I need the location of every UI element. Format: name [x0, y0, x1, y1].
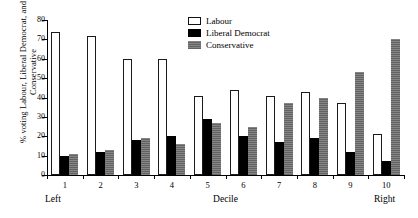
bar-group — [158, 20, 185, 175]
bar-liberaldemocrat-decile-10 — [382, 161, 391, 175]
x-tick-label-decile-6: 6 — [228, 180, 258, 191]
bar-conservative-decile-3 — [141, 138, 150, 175]
x-tick-label-decile-4: 4 — [157, 180, 187, 191]
bar-group — [51, 20, 78, 175]
bar-conservative-decile-8 — [319, 98, 328, 176]
x-tick-label-decile-8: 8 — [300, 180, 330, 191]
x-tick-mark — [333, 175, 334, 179]
bar-conservative-decile-7 — [284, 103, 293, 175]
y-tick-label: 30 — [37, 111, 45, 122]
bar-liberaldemocrat-decile-2 — [96, 152, 105, 175]
y-tick-label: 80 — [37, 14, 45, 25]
y-tick-label: 70 — [37, 33, 45, 44]
bar-group — [123, 20, 150, 175]
bar-liberaldemocrat-decile-3 — [132, 140, 141, 175]
bar-labour-decile-1 — [51, 32, 60, 175]
x-tick-mark — [83, 175, 84, 179]
bar-conservative-decile-10 — [391, 39, 400, 175]
bar-labour-decile-8 — [301, 92, 310, 175]
bar-conservative-decile-9 — [355, 72, 364, 175]
x-tick-mark — [226, 175, 227, 179]
x-tick-mark — [261, 175, 262, 179]
bar-group — [337, 20, 364, 175]
legend-item: Conservative — [188, 39, 270, 51]
bar-liberaldemocrat-decile-4 — [167, 136, 176, 175]
bar-labour-decile-7 — [266, 96, 275, 175]
x-tick-mark — [368, 175, 369, 179]
x-tick-label-decile-1: 1 — [50, 180, 80, 191]
bar-labour-decile-4 — [158, 59, 167, 175]
bar-liberaldemocrat-decile-7 — [275, 142, 284, 175]
bar-conservative-decile-4 — [176, 144, 185, 175]
y-axis-title: % voting Labour, Liberal Democrat, and C… — [18, 0, 38, 156]
bar-labour-decile-3 — [123, 59, 132, 175]
x-tick-mark — [118, 175, 119, 179]
y-tick-label: 20 — [37, 130, 45, 141]
bar-labour-decile-5 — [194, 96, 203, 175]
bar-labour-decile-2 — [87, 36, 96, 176]
x-tick-mark — [190, 175, 191, 179]
x-tick-label-decile-10: 10 — [371, 180, 401, 191]
y-tick-label: 0 — [41, 169, 45, 180]
legend-item: Labour — [188, 15, 270, 27]
bar-conservative-decile-5 — [212, 123, 221, 175]
bar-group — [301, 20, 328, 175]
x-axis-right-anchor-label: Right — [374, 194, 395, 204]
y-tick-label: 40 — [37, 92, 45, 103]
x-axis-title: Decile — [47, 194, 404, 204]
bar-liberaldemocrat-decile-1 — [60, 156, 69, 175]
x-tick-mark — [47, 175, 48, 179]
x-tick-label-decile-9: 9 — [335, 180, 365, 191]
legend-item: Liberal Democrat — [188, 27, 270, 39]
x-tick-label-decile-3: 3 — [121, 180, 151, 191]
x-tick-mark — [154, 175, 155, 179]
bar-conservative-decile-1 — [69, 154, 78, 175]
x-axis-left-anchor-label: Left — [45, 194, 61, 204]
y-tick-label: 10 — [37, 150, 45, 161]
x-tick-mark — [404, 175, 405, 179]
x-tick-label-decile-2: 2 — [86, 180, 116, 191]
bar-labour-decile-6 — [230, 90, 239, 175]
y-tick-label: 50 — [37, 72, 45, 83]
bar-conservative-decile-2 — [105, 150, 114, 175]
bar-labour-decile-9 — [337, 103, 346, 175]
bar-liberaldemocrat-decile-6 — [239, 136, 248, 175]
chart-legend: LabourLiberal DemocratConservative — [188, 15, 270, 51]
legend-label: Conservative — [206, 40, 254, 51]
x-tick-mark — [297, 175, 298, 179]
legend-label: Liberal Democrat — [206, 28, 270, 39]
bar-labour-decile-10 — [373, 134, 382, 175]
bar-group — [87, 20, 114, 175]
legend-label: Labour — [206, 16, 232, 27]
bar-group — [373, 20, 400, 175]
bar-chart: % voting Labour, Liberal Democrat, and C… — [0, 0, 418, 218]
x-tick-label-decile-7: 7 — [264, 180, 294, 191]
y-axis-line — [47, 20, 48, 175]
legend-swatch-labour — [188, 17, 201, 25]
legend-swatch-liberaldemocrat — [188, 29, 201, 37]
bar-liberaldemocrat-decile-8 — [310, 138, 319, 175]
bar-liberaldemocrat-decile-9 — [346, 152, 355, 175]
bar-liberaldemocrat-decile-5 — [203, 119, 212, 175]
y-tick-label: 60 — [37, 53, 45, 64]
legend-swatch-conservative — [188, 41, 201, 49]
x-tick-label-decile-5: 5 — [193, 180, 223, 191]
bar-conservative-decile-6 — [248, 127, 257, 175]
